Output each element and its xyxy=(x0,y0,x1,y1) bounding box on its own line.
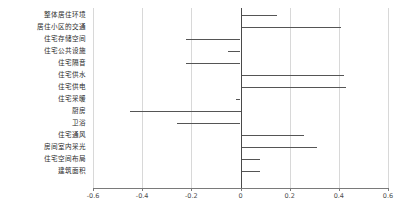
category-label: 厨房 xyxy=(0,105,86,117)
bar xyxy=(241,135,305,136)
chart-row: 住宅存储空间 xyxy=(0,33,400,45)
bar xyxy=(241,87,347,88)
axis-tick xyxy=(339,188,340,191)
category-label: 住宅公共设施 xyxy=(0,45,86,57)
chart-row: 建筑面积 xyxy=(0,165,400,177)
chart-row: 住宅空间布局 xyxy=(0,153,400,165)
category-label: 建筑面积 xyxy=(0,165,86,177)
category-label: 住宅通风 xyxy=(0,129,86,141)
bar xyxy=(241,171,261,172)
x-tick-label: -0.2 xyxy=(185,193,198,200)
bar xyxy=(241,75,344,76)
bar xyxy=(241,15,278,16)
category-label: 住宅供水 xyxy=(0,69,86,81)
chart-row: 住宅供水 xyxy=(0,69,400,81)
category-label: 整体居住环境 xyxy=(0,9,86,21)
bar xyxy=(241,147,317,148)
axis-tick xyxy=(290,188,291,191)
x-tick-label: 0.2 xyxy=(284,193,294,200)
axis-tick xyxy=(93,188,94,191)
chart-row: 整体居住环境 xyxy=(0,9,400,21)
x-tick-label: 0 xyxy=(238,193,242,200)
chart-row: 住宅公共设施 xyxy=(0,45,400,57)
category-label: 住宅空间布局 xyxy=(0,153,86,165)
x-tick-label: 0.4 xyxy=(334,193,344,200)
bar xyxy=(228,51,240,52)
category-label: 住宅隔音 xyxy=(0,57,86,69)
x-tick-label: -0.6 xyxy=(87,193,100,200)
axis-tick xyxy=(241,188,242,191)
category-label: 居住小区的交通 xyxy=(0,21,86,33)
category-label: 住宅存储空间 xyxy=(0,33,86,45)
chart-row: 住宅采暖 xyxy=(0,93,400,105)
category-label: 住宅供电 xyxy=(0,81,86,93)
category-label: 卫浴 xyxy=(0,117,86,129)
chart-row: 卫浴 xyxy=(0,117,400,129)
bar xyxy=(186,39,240,40)
x-tick-label: 0.6 xyxy=(383,193,393,200)
chart-row: 住宅通风 xyxy=(0,129,400,141)
chart-row: 居住小区的交通 xyxy=(0,21,400,33)
category-label: 房间室内采光 xyxy=(0,141,86,153)
axis-tick xyxy=(142,188,143,191)
zero-reference-line xyxy=(241,8,242,188)
bar xyxy=(241,159,261,160)
chart-row: 住宅供电 xyxy=(0,81,400,93)
chart-row: 房间室内采光 xyxy=(0,141,400,153)
chart-row: 住宅隔音 xyxy=(0,57,400,69)
horizontal-bar-chart: -0.6-0.4-0.200.20.40.6 整体居住环境居住小区的交通住宅存储… xyxy=(0,0,400,217)
chart-row: 厨房 xyxy=(0,105,400,117)
bar xyxy=(130,111,241,112)
bar xyxy=(241,27,342,28)
bar xyxy=(177,123,241,124)
bar xyxy=(186,63,240,64)
axis-tick xyxy=(388,188,389,191)
category-label: 住宅采暖 xyxy=(0,93,86,105)
axis-tick xyxy=(191,188,192,191)
x-tick-label: -0.4 xyxy=(136,193,149,200)
